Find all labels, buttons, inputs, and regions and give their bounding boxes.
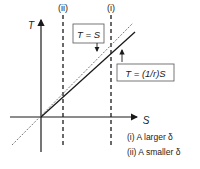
- diagram: (ii) (i) T S T = S T = (1/r)S (i) A larg…: [0, 0, 200, 169]
- vline-ii-label: (ii): [58, 3, 68, 13]
- legend-item-i: (i) A larger δ: [127, 132, 173, 142]
- legend-item-ii: (ii) A smaller δ: [127, 147, 181, 157]
- scaled-label: T = (1/r)S: [125, 68, 166, 79]
- y-axis-label: T: [28, 20, 35, 31]
- x-axis-label: S: [143, 115, 150, 126]
- identity-line: [12, 23, 133, 145]
- identity-label: T = S: [77, 29, 101, 40]
- vline-i-label: (i): [107, 3, 115, 13]
